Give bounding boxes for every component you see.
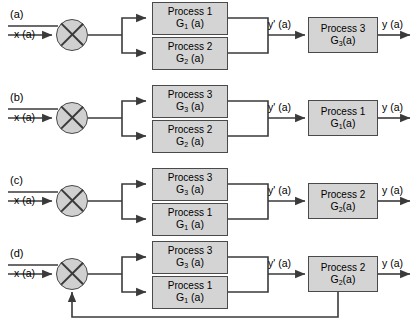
split-up-b bbox=[122, 101, 146, 118]
series-box-d[interactable]: Process 2 G2(a) bbox=[308, 256, 378, 292]
process-box-d1[interactable]: Process 3 G3 (a) bbox=[152, 241, 228, 274]
intermediate-label-a: y' (a) bbox=[268, 18, 291, 30]
process-gain: G2(a) bbox=[331, 201, 356, 212]
process-gain: G1 (a) bbox=[176, 219, 204, 230]
process-gain: G3(a) bbox=[331, 35, 356, 46]
series-box-b[interactable]: Process 1 G1(a) bbox=[308, 100, 378, 136]
split-down-b bbox=[122, 118, 146, 136]
row-tag-c: (c) bbox=[10, 174, 23, 186]
process-box-b1[interactable]: Process 3 G3 (a) bbox=[152, 85, 228, 118]
process-box-c1[interactable]: Process 3 G3 (a) bbox=[152, 168, 228, 201]
merge-up-b bbox=[228, 101, 268, 118]
merge-down-b bbox=[228, 118, 268, 136]
merge-up-d bbox=[228, 257, 268, 274]
merge-down-c bbox=[228, 201, 268, 219]
split-down-c bbox=[122, 201, 146, 219]
intermediate-label-c: y' (a) bbox=[268, 184, 291, 196]
split-up-a bbox=[122, 18, 146, 35]
process-gain: G3 (a) bbox=[176, 184, 204, 195]
output-label-a: y (a) bbox=[382, 18, 403, 30]
output-label-c: y (a) bbox=[382, 184, 403, 196]
series-box-c[interactable]: Process 2 G2(a) bbox=[308, 183, 378, 219]
output-label-d: y (a) bbox=[382, 257, 403, 269]
split-up-c bbox=[122, 184, 146, 201]
merge-down-a bbox=[228, 35, 268, 53]
summing-junction-d[interactable] bbox=[56, 258, 88, 290]
split-down-a bbox=[122, 35, 146, 53]
split-down-d bbox=[122, 274, 146, 292]
input-label-a: x (a) bbox=[14, 28, 35, 40]
process-box-a2[interactable]: Process 2 G2 (a) bbox=[152, 37, 228, 70]
row-tag-b: (b) bbox=[10, 91, 23, 103]
process-gain: G1 (a) bbox=[176, 292, 204, 303]
summing-junction-a[interactable] bbox=[56, 19, 88, 51]
intermediate-label-b: y' (a) bbox=[268, 101, 291, 113]
process-gain: G2 (a) bbox=[176, 136, 204, 147]
process-gain: G1(a) bbox=[331, 118, 356, 129]
series-box-a[interactable]: Process 3 G3(a) bbox=[308, 17, 378, 53]
input-label-d: x (a) bbox=[14, 267, 35, 279]
process-box-c2[interactable]: Process 1 G1 (a) bbox=[152, 203, 228, 236]
process-gain: G2(a) bbox=[331, 274, 356, 285]
summing-junction-b[interactable] bbox=[56, 102, 88, 134]
row-tag-a: (a) bbox=[10, 8, 23, 20]
process-gain: G2 (a) bbox=[176, 53, 204, 64]
process-gain: G3 (a) bbox=[176, 257, 204, 268]
split-up-d bbox=[122, 257, 146, 274]
process-gain: G3 (a) bbox=[176, 101, 204, 112]
merge-up-c bbox=[228, 184, 268, 201]
process-box-a1[interactable]: Process 1 G1 (a) bbox=[152, 2, 228, 35]
block-diagram: (a) x (a) Process 1 G1 (a) Process 2 G2 … bbox=[0, 0, 416, 327]
merge-down-d bbox=[228, 274, 268, 292]
output-label-b: y (a) bbox=[382, 101, 403, 113]
row-tag-d: (d) bbox=[10, 247, 23, 259]
input-label-c: x (a) bbox=[14, 194, 35, 206]
process-box-d2[interactable]: Process 1 G1 (a) bbox=[152, 276, 228, 309]
intermediate-label-d: y' (a) bbox=[268, 257, 291, 269]
merge-up-a bbox=[228, 18, 268, 35]
process-gain: G1 (a) bbox=[176, 18, 204, 29]
input-label-b: x (a) bbox=[14, 111, 35, 123]
process-box-b2[interactable]: Process 2 G2 (a) bbox=[152, 120, 228, 153]
summing-junction-c[interactable] bbox=[56, 185, 88, 217]
